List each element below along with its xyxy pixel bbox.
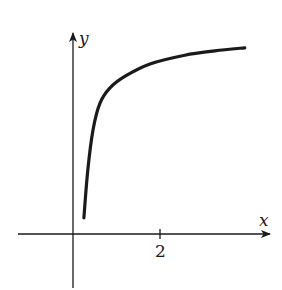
function-curve [84, 48, 245, 218]
x-axis-label: x [259, 210, 269, 230]
y-axis-label: y [78, 28, 89, 48]
chart-plot: y x 2 [0, 0, 282, 290]
x-tick-label-2: 2 [155, 241, 166, 261]
